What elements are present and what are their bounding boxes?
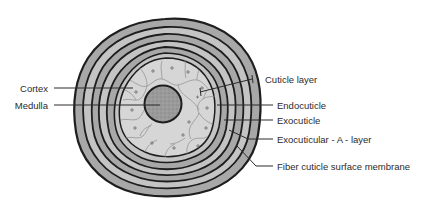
label-cuticle-layer: Cuticle layer <box>265 74 317 85</box>
hair-cross-section-diagram: Cortex Medulla Cuticle layer Endocuticle… <box>0 0 428 205</box>
label-exocuticle: Exocuticle <box>277 115 320 126</box>
label-endocuticle: Endocuticle <box>277 100 326 111</box>
label-exocuticular-a-layer: Exocuticular - A - layer <box>277 134 372 145</box>
label-fiber-cuticle-surface-membrane: Fiber cuticle surface membrane <box>277 161 410 172</box>
label-cortex: Cortex <box>20 83 48 94</box>
medulla-core <box>145 86 182 123</box>
label-medulla: Medulla <box>15 100 49 111</box>
